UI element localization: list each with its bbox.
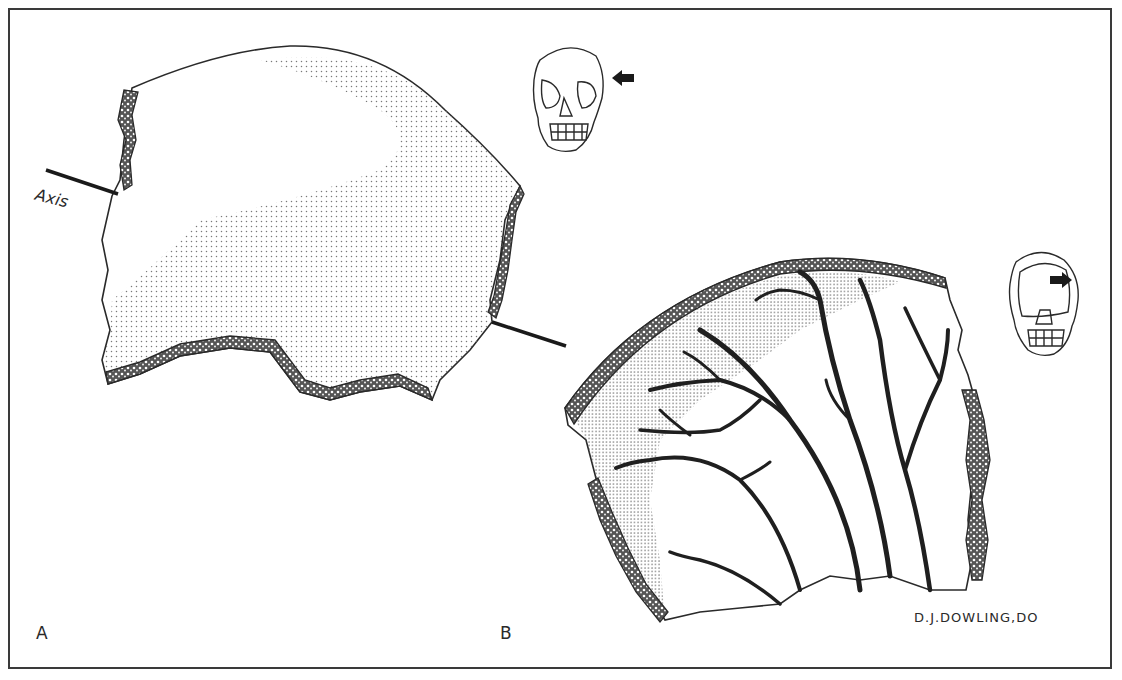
illustration-canvas xyxy=(0,0,1122,680)
skull-inset-b xyxy=(1010,252,1079,355)
axis-line-right xyxy=(492,322,566,346)
panel-label-a: A xyxy=(36,625,48,642)
skull-inset-a xyxy=(534,48,604,151)
arrow-left-icon xyxy=(612,70,634,86)
skull-frontal-view-icon xyxy=(534,48,604,151)
bone-fragment-a xyxy=(102,46,524,400)
artist-signature: D.J.DOWLING,DO xyxy=(914,610,1038,625)
panel-label-b: B xyxy=(500,625,512,642)
